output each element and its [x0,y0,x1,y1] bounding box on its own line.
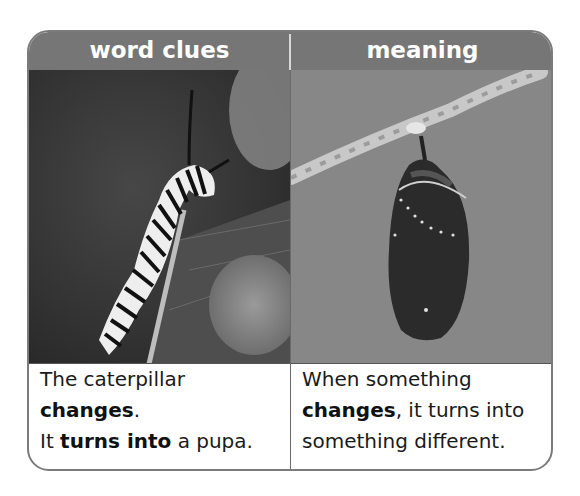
caterpillar-image [29,70,290,364]
vocabulary-table: word clues meaning [27,30,553,471]
meaning-line2-end: , it turns into [396,398,525,422]
column-divider [290,70,291,471]
meaning-keyword-changes: changes [302,398,396,422]
clue-line1-plain: The caterpillar [40,367,185,391]
meaning-text: When something changes, it turns into so… [302,364,547,457]
table-header: word clues meaning [29,32,551,70]
clue-keyword-turns-into: turns into [60,429,171,453]
header-meaning: meaning [292,32,553,70]
clue-keyword-changes: changes [40,398,134,422]
meaning-line1: When something [302,367,472,391]
clue-line1-end: . [134,398,140,422]
clue-line2-end: a pupa. [171,429,253,453]
word-clues-text: The caterpillar changes. It turns into a… [40,364,290,457]
chrysalis-image [291,70,553,364]
meaning-line3: something different. [302,429,506,453]
clue-line2-start: It [40,429,60,453]
header-word-clues: word clues [29,32,290,70]
header-divider [289,34,291,70]
